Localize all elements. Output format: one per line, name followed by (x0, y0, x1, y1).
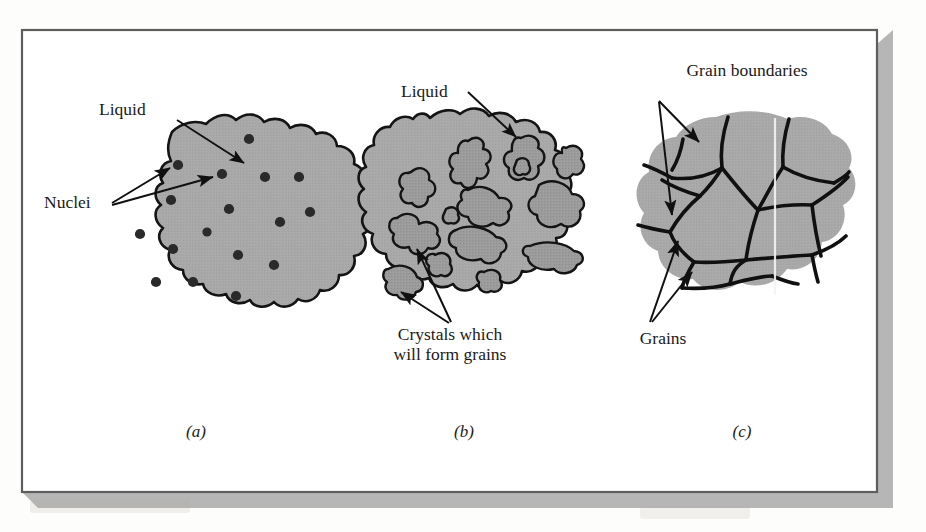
grains-label: Grains (640, 328, 687, 348)
panel-label-c: (c) (733, 422, 752, 441)
liquid-label-b: Liquid (401, 81, 448, 101)
nucleus-dot (305, 207, 315, 217)
panel-label-b: (b) (454, 422, 474, 441)
nucleus-dot (275, 217, 285, 227)
nucleus-dot (151, 277, 161, 287)
nucleus-dot (188, 277, 198, 287)
crystals-label-line1: Crystals which (398, 324, 503, 344)
crystal (477, 270, 502, 292)
solidification-figure: Liquid Nuclei (a) (0, 0, 926, 532)
grain-boundaries-label: Grain boundaries (686, 60, 807, 80)
nucleus-dot (217, 169, 227, 179)
liquid-label-a: Liquid (99, 99, 146, 119)
crystal (443, 207, 459, 223)
nucleus-dot (168, 244, 178, 254)
nucleus-dot (294, 172, 304, 182)
nucleus-dot (166, 195, 176, 205)
nucleus-dot (135, 229, 145, 239)
nucleus-dot (202, 227, 211, 236)
nuclei-label-a: Nuclei (44, 192, 91, 212)
nucleus-dot (224, 204, 234, 214)
nucleus-dot (244, 134, 254, 144)
panel-label-a: (a) (186, 422, 206, 441)
nucleus-dot (233, 250, 243, 260)
nucleus-dot (231, 291, 241, 301)
nucleus-dot (173, 160, 183, 170)
figure-stage: Liquid Nuclei (a) (0, 0, 926, 532)
nucleus-dot (269, 260, 279, 270)
crystals-label-line2: will form grains (394, 344, 507, 364)
crystal (426, 253, 452, 276)
crystal (514, 158, 530, 175)
nucleus-dot (260, 172, 270, 182)
